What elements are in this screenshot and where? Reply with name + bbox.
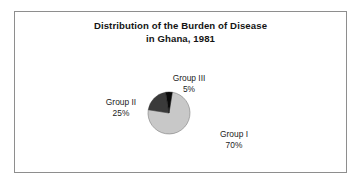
pie-slice-group-2 (148, 92, 169, 113)
pie-label-group-2-name: Group II (92, 97, 150, 108)
pie-label-group-1-name: Group I (205, 129, 263, 140)
pie-label-group-2-value: 25% (92, 108, 150, 119)
pie-label-group-3-name: Group III (157, 73, 221, 84)
pie-label-group-3-value: 5% (157, 84, 221, 95)
pie-chart-svg (144, 88, 194, 138)
pie-label-group-2: Group II 25% (92, 97, 150, 118)
figure-frame: Distribution of the Burden of Disease in… (14, 11, 347, 173)
pie-label-group-1-value: 70% (205, 140, 263, 151)
pie-chart: Group III 5% Group II 25% Group I 70% (15, 12, 348, 174)
pie-label-group-1: Group I 70% (205, 129, 263, 150)
pie-label-group-3: Group III 5% (157, 73, 221, 94)
